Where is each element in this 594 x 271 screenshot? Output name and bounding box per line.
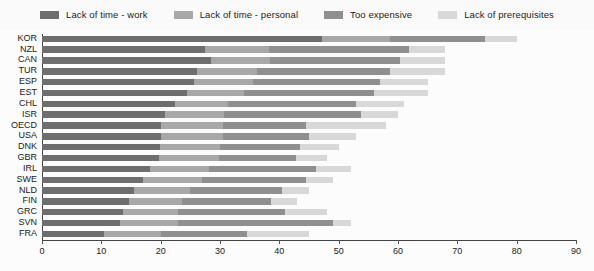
y-axis-label: ISR: [22, 109, 37, 120]
x-tick-mark: [398, 240, 399, 244]
y-axis-label: GBR: [17, 152, 37, 163]
x-tick-mark: [161, 240, 162, 244]
bar-segment: [190, 187, 282, 193]
legend-swatch-icon: [324, 11, 343, 19]
bar-segment: [182, 198, 271, 204]
bar-segment: [120, 220, 179, 226]
bar-segment: [409, 46, 446, 52]
bar-segment: [333, 220, 351, 226]
bar-segment: [244, 90, 375, 96]
bar-segment: [228, 101, 356, 107]
bar-row: [42, 231, 576, 237]
bar-segment: [253, 79, 381, 85]
bar-segment: [247, 231, 309, 237]
bar-segment: [175, 101, 228, 107]
x-tick-mark: [279, 240, 280, 244]
bar-segment: [42, 57, 211, 63]
bar-segment: [42, 133, 161, 139]
legend-item[interactable]: Too expensive: [324, 10, 412, 20]
y-axis-label: CAN: [18, 54, 37, 65]
bar-row: [42, 155, 576, 161]
bar-segment: [209, 166, 316, 172]
legend-item[interactable]: Lack of time - work: [40, 10, 148, 20]
y-axis-label: FRA: [19, 228, 37, 239]
bar-segment: [194, 79, 252, 85]
bar-segment: [380, 79, 427, 85]
bar-segment: [485, 36, 516, 42]
x-tick-mark: [339, 240, 340, 244]
bar-segment: [104, 231, 160, 237]
bar-segment: [361, 111, 398, 117]
bar-row: [42, 177, 576, 183]
legend-item-label: Lack of prerequisites: [464, 10, 554, 20]
bar-segment: [161, 122, 223, 128]
bar-row: [42, 144, 576, 150]
bar-segment: [159, 155, 218, 161]
bar-segment: [42, 122, 161, 128]
bar-segment: [374, 90, 427, 96]
bar-row: [42, 101, 576, 107]
bar-segment: [42, 220, 120, 226]
bar-segment: [306, 177, 333, 183]
y-axis-label: ESP: [19, 76, 37, 87]
x-tick-label: 80: [512, 246, 522, 256]
bar-row: [42, 133, 576, 139]
bar-segment: [42, 68, 197, 74]
bar-segment: [42, 187, 134, 193]
bar-row: [42, 166, 576, 172]
legend-item-label: Lack of time - work: [66, 10, 148, 20]
bar-segment: [219, 155, 296, 161]
y-axis-label: SWE: [16, 174, 37, 185]
bar-segment: [178, 209, 285, 215]
x-tick-mark: [42, 240, 43, 244]
bar-segment: [269, 46, 408, 52]
bar-segment: [42, 198, 129, 204]
bar-segment: [390, 68, 445, 74]
bar-segment: [160, 144, 220, 150]
plot-area: KORNZLCANTURESPESTCHLISROECDUSADNKGBRIRL…: [0, 30, 594, 271]
y-axis-label: IRL: [23, 163, 37, 174]
bar-row: [42, 187, 576, 193]
x-tick-mark: [576, 240, 577, 244]
y-axis-label: NLD: [19, 185, 37, 196]
bar-row: [42, 209, 576, 215]
x-tick-mark: [220, 240, 221, 244]
bar-segment: [42, 79, 194, 85]
bar-segment: [42, 166, 150, 172]
y-axis-label: FIN: [23, 195, 38, 206]
bar-segment: [161, 231, 247, 237]
x-tick-mark: [101, 240, 102, 244]
bar-segment: [390, 36, 485, 42]
bar-row: [42, 57, 576, 63]
x-tick-label: 20: [156, 246, 166, 256]
y-axis-label: EST: [19, 87, 37, 98]
y-axis-label: CHL: [19, 98, 37, 109]
bar-segment: [282, 187, 309, 193]
bar-row: [42, 79, 576, 85]
x-tick-mark: [517, 240, 518, 244]
legend-swatch-icon: [438, 11, 457, 19]
x-tick-label: 0: [39, 246, 44, 256]
legend-item-label: Too expensive: [350, 10, 412, 20]
bar-segment: [42, 209, 123, 215]
bar-segment: [42, 90, 187, 96]
bar-segment: [316, 166, 350, 172]
chart-root: Lack of time - workLack of time - person…: [0, 0, 594, 271]
legend-item[interactable]: Lack of prerequisites: [438, 10, 554, 20]
bar-segment: [134, 187, 190, 193]
bar-segment: [42, 46, 205, 52]
bar-series-container: [42, 34, 576, 240]
bar-row: [42, 122, 576, 128]
y-axis-label: KOR: [17, 33, 37, 44]
legend-swatch-icon: [40, 11, 59, 19]
bar-segment: [220, 144, 300, 150]
bar-segment: [178, 220, 332, 226]
legend-item[interactable]: Lack of time - personal: [174, 10, 298, 20]
bar-segment: [400, 57, 445, 63]
y-axis-labels: KORNZLCANTURESPESTCHLISROECDUSADNKGBRIRL…: [0, 30, 40, 236]
bar-segment: [223, 122, 306, 128]
y-axis-label: USA: [18, 130, 37, 141]
bar-segment: [309, 133, 356, 139]
bar-segment: [161, 133, 223, 139]
bar-segment: [165, 111, 224, 117]
